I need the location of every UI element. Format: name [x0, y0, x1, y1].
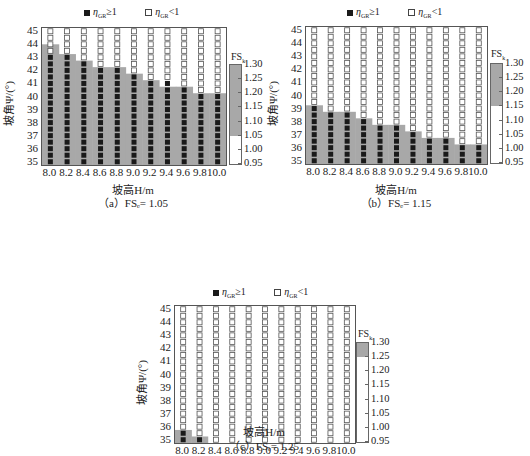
y-tick-label: 39 — [18, 104, 38, 114]
marker-hollow — [328, 405, 333, 410]
marker-filled — [115, 159, 120, 164]
marker-filled — [148, 81, 153, 86]
marker-hollow — [165, 29, 170, 34]
marker-hollow — [476, 113, 481, 118]
marker-hollow — [361, 67, 366, 72]
marker-filled — [132, 74, 137, 79]
marker-hollow — [345, 60, 350, 65]
marker-filled — [215, 127, 220, 132]
marker-hollow — [181, 352, 186, 357]
marker-hollow — [197, 379, 202, 384]
marker-hollow — [378, 86, 383, 91]
marker-hollow — [295, 313, 300, 318]
marker-hollow — [328, 385, 333, 390]
colorbar-tick-label: 0.95 — [505, 157, 523, 167]
marker-filled — [115, 133, 120, 138]
marker-filled — [65, 101, 70, 106]
marker-hollow — [182, 68, 187, 73]
marker-filled — [165, 81, 170, 86]
marker-hollow — [279, 385, 284, 390]
colorbar-tick-label: 1.30 — [244, 59, 262, 69]
marker-filled — [345, 145, 350, 150]
marker-hollow — [213, 320, 218, 325]
marker-filled — [394, 139, 399, 144]
marker-hollow — [197, 359, 202, 364]
marker-hollow — [48, 48, 53, 53]
marker-hollow — [132, 48, 137, 53]
marker-hollow — [213, 346, 218, 351]
y-tick-label: 43 — [282, 50, 302, 60]
y-tick-label: 37 — [18, 130, 38, 140]
colorbar-tick-label: 1.20 — [244, 87, 262, 97]
marker-filled — [443, 158, 448, 163]
colorbar-c — [356, 342, 369, 443]
marker-hollow — [312, 80, 317, 85]
marker-filled — [81, 61, 86, 66]
marker-hollow — [410, 60, 415, 65]
colorbar-tick-label: 1.10 — [505, 115, 523, 125]
marker-hollow — [213, 418, 218, 423]
marker-hollow — [295, 365, 300, 370]
marker-hollow — [394, 41, 399, 46]
marker-filled — [148, 133, 153, 138]
marker-hollow — [460, 132, 465, 137]
y-tick-label: 36 — [151, 421, 171, 431]
marker-hollow — [328, 333, 333, 338]
marker-filled — [48, 159, 53, 164]
colorbar-tick-label: 1.05 — [244, 130, 262, 140]
marker-hollow — [328, 372, 333, 377]
marker-hollow — [427, 113, 432, 118]
marker-filled — [361, 126, 366, 131]
marker-filled — [115, 140, 120, 145]
marker-hollow — [263, 365, 268, 370]
marker-hollow — [295, 398, 300, 403]
marker-hollow — [312, 405, 317, 410]
marker-hollow — [295, 346, 300, 351]
y-tick-label: 41 — [18, 77, 38, 87]
marker-hollow — [427, 54, 432, 59]
marker-hollow — [410, 28, 415, 33]
marker-hollow — [312, 54, 317, 59]
marker-hollow — [230, 365, 235, 370]
marker-hollow — [215, 74, 220, 79]
legend-a: ηGR≥1 ηGR<1 — [84, 6, 205, 19]
marker-hollow — [476, 119, 481, 124]
marker-filled — [215, 94, 220, 99]
y-tick-label: 35 — [18, 156, 38, 166]
marker-hollow — [263, 405, 268, 410]
marker-filled — [328, 139, 333, 144]
marker-filled — [361, 119, 366, 124]
marker-hollow — [328, 100, 333, 105]
marker-hollow — [230, 339, 235, 344]
marker-filled — [115, 127, 120, 132]
marker-hollow — [165, 48, 170, 53]
marker-filled — [443, 145, 448, 150]
caption-c: （c）FSₑ= 1.25 — [204, 437, 324, 453]
marker-hollow — [328, 326, 333, 331]
marker-hollow — [378, 113, 383, 118]
marker-hollow — [312, 60, 317, 65]
marker-filled — [148, 107, 153, 112]
marker-hollow — [246, 313, 251, 318]
marker-hollow — [197, 385, 202, 390]
marker-filled — [312, 152, 317, 157]
marker-filled — [198, 133, 203, 138]
marker-hollow — [344, 385, 349, 390]
marker-hollow — [345, 93, 350, 98]
marker-filled — [345, 132, 350, 137]
marker-filled — [148, 146, 153, 151]
y-tick-label: 37 — [282, 129, 302, 139]
marker-filled — [81, 159, 86, 164]
marker-hollow — [476, 80, 481, 85]
marker-hollow — [476, 54, 481, 59]
marker-hollow — [148, 61, 153, 66]
y-tick-label: 38 — [18, 117, 38, 127]
marker-filled — [65, 146, 70, 151]
marker-hollow — [312, 47, 317, 52]
marker-hollow — [460, 67, 465, 72]
marker-hollow — [460, 106, 465, 111]
marker-hollow — [443, 86, 448, 91]
marker-hollow — [65, 48, 70, 53]
x-tick-label: 10.0 — [336, 444, 356, 456]
marker-hollow — [263, 346, 268, 351]
